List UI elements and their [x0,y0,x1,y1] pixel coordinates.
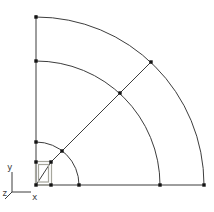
z-axis-label: z [2,188,7,198]
x-axis-label: x [32,192,38,202]
keypoint-dot [34,59,37,62]
diagonal-radial-line [36,62,151,185]
keypoint-dot [34,160,37,163]
middle-arc [36,61,160,185]
geometry-plot: yxz [0,0,214,212]
keypoint-dot [149,60,152,63]
outer-arc [36,17,204,185]
keypoint-dot [202,183,205,186]
plot-canvas: yxz [0,0,214,212]
inner-arc [36,142,79,185]
keypoint-dot [158,183,161,186]
keypoint-dot [34,15,37,18]
keypoint-dot [49,160,52,163]
keypoint-dot [34,140,37,143]
keypoint-dot [34,183,37,186]
keypoint-dot [118,91,121,94]
keypoint-dot [77,183,80,186]
keypoint-dot [49,183,52,186]
y-axis-label: y [7,162,13,172]
keypoint-dot [60,149,63,152]
